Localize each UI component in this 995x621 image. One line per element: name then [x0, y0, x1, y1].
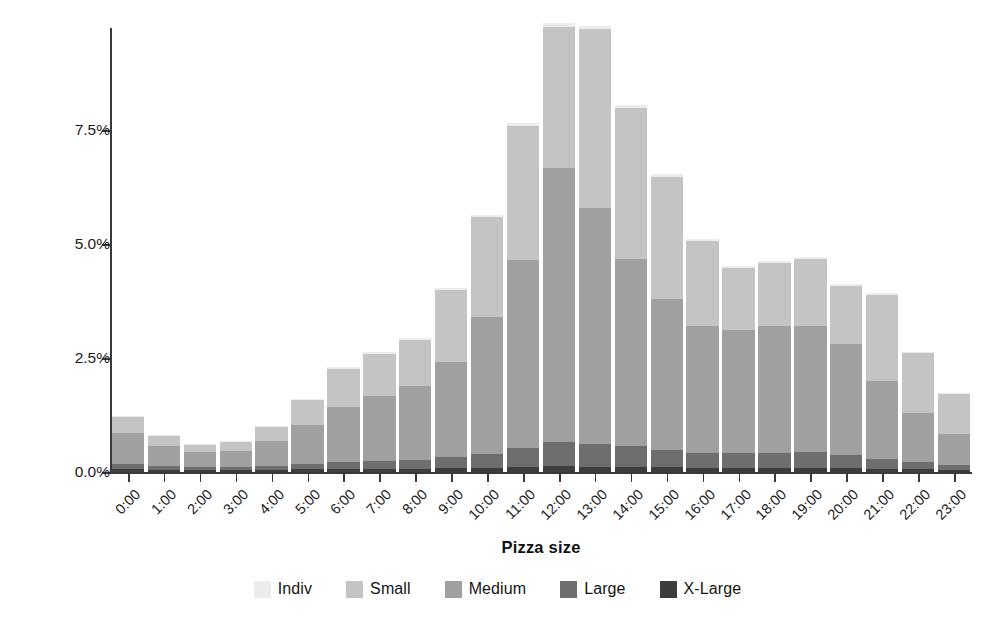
- x-tick-mark: [415, 474, 417, 482]
- legend-swatch-medium: [445, 581, 462, 598]
- bar-10-00[interactable]: [471, 215, 503, 472]
- bar-segment-small: [148, 436, 180, 446]
- x-tick-mark: [954, 474, 956, 482]
- stacked-bar-chart: Density 0.0%2.5%5.0%7.5% 0:001:002:003:0…: [0, 0, 995, 621]
- bar-segment-large: [722, 453, 754, 468]
- legend-swatch-large: [560, 581, 577, 598]
- x-tick-mark: [559, 474, 561, 482]
- bar-segment-large: [363, 461, 395, 469]
- bar-segment-small: [255, 427, 287, 441]
- bar-0-00[interactable]: [112, 416, 144, 472]
- x-tick-mark: [631, 474, 633, 482]
- bar-12-00[interactable]: [543, 23, 575, 472]
- legend-swatch-x-large: [660, 581, 677, 598]
- bar-11-00[interactable]: [507, 123, 539, 472]
- bar-segment-medium: [435, 362, 467, 457]
- bar-3-00[interactable]: [220, 441, 252, 472]
- bar-segment-medium: [758, 326, 790, 453]
- bar-segment-large: [686, 453, 718, 468]
- bar-segment-small: [327, 369, 359, 407]
- bar-segment-medium: [220, 451, 252, 467]
- bar-segment-medium: [291, 425, 323, 464]
- legend-item-medium[interactable]: Medium: [445, 580, 527, 598]
- bar-segment-medium: [507, 260, 539, 448]
- bar-20-00[interactable]: [830, 284, 862, 472]
- bar-segment-large: [615, 446, 647, 467]
- bar-segment-small: [507, 126, 539, 260]
- x-tick-mark: [810, 474, 812, 482]
- y-tick-label: 7.5%: [48, 121, 110, 139]
- plot-area: [110, 20, 972, 472]
- x-tick-mark: [882, 474, 884, 482]
- bar-6-00[interactable]: [327, 367, 359, 472]
- bar-segment-medium: [184, 452, 216, 467]
- legend-label-medium: Medium: [469, 580, 527, 598]
- x-tick-mark: [846, 474, 848, 482]
- bar-segment-large: [399, 460, 431, 469]
- bar-segment-medium: [363, 396, 395, 461]
- bar-23-00[interactable]: [938, 393, 970, 472]
- bar-21-00[interactable]: [866, 293, 898, 472]
- bar-9-00[interactable]: [435, 288, 467, 472]
- bar-segment-small: [651, 177, 683, 299]
- bar-segment-large: [758, 453, 790, 468]
- bar-segment-medium: [148, 446, 180, 466]
- bar-15-00[interactable]: [651, 174, 683, 472]
- x-tick-mark: [379, 474, 381, 482]
- x-tick-mark: [343, 474, 345, 482]
- x-tick-mark: [164, 474, 166, 482]
- bar-segment-medium: [866, 381, 898, 459]
- bar-13-00[interactable]: [579, 26, 611, 472]
- legend-item-large[interactable]: Large: [560, 580, 625, 598]
- bar-16-00[interactable]: [686, 239, 718, 472]
- bar-segment-large: [866, 459, 898, 469]
- bar-5-00[interactable]: [291, 399, 323, 472]
- bar-segment-small: [579, 29, 611, 208]
- bar-segment-medium: [327, 407, 359, 462]
- bar-segment-medium: [830, 344, 862, 455]
- bar-segment-large: [543, 442, 575, 466]
- bar-segment-small: [220, 442, 252, 451]
- y-tick-label: 2.5%: [48, 349, 110, 367]
- bar-2-00[interactable]: [184, 444, 216, 472]
- x-tick-mark: [128, 474, 130, 482]
- legend-swatch-small: [346, 581, 363, 598]
- bar-segment-large: [830, 455, 862, 468]
- legend-item-indiv[interactable]: Indiv: [254, 580, 312, 598]
- legend-swatch-indiv: [254, 581, 271, 598]
- bar-17-00[interactable]: [722, 266, 754, 472]
- bar-18-00[interactable]: [758, 261, 790, 472]
- bar-segment-small: [184, 445, 216, 453]
- bar-segment-small: [722, 268, 754, 331]
- bar-segment-small: [758, 263, 790, 326]
- bar-19-00[interactable]: [794, 257, 826, 472]
- bar-segment-medium: [579, 208, 611, 444]
- bar-segment-small: [112, 417, 144, 433]
- bar-segment-small: [471, 217, 503, 317]
- x-tick-mark: [595, 474, 597, 482]
- bar-segment-large: [507, 448, 539, 467]
- legend-label-large: Large: [584, 580, 625, 598]
- x-tick-mark: [451, 474, 453, 482]
- bar-segment-medium: [651, 299, 683, 451]
- bar-segment-medium: [938, 434, 970, 465]
- bar-8-00[interactable]: [399, 338, 431, 472]
- legend-item-x-large[interactable]: X-Large: [660, 580, 742, 598]
- bar-segment-large: [435, 457, 467, 468]
- legend-label-small: Small: [370, 580, 411, 598]
- x-tick-mark: [739, 474, 741, 482]
- bar-segment-small: [543, 27, 575, 167]
- bar-22-00[interactable]: [902, 352, 934, 472]
- legend-item-small[interactable]: Small: [346, 580, 411, 598]
- bar-4-00[interactable]: [255, 426, 287, 472]
- bar-1-00[interactable]: [148, 435, 180, 472]
- y-tick-label: 5.0%: [48, 235, 110, 253]
- bar-7-00[interactable]: [363, 352, 395, 472]
- bar-segment-medium: [794, 326, 826, 452]
- bar-segment-large: [794, 452, 826, 468]
- bar-segment-small: [686, 241, 718, 326]
- bar-segment-small: [615, 108, 647, 259]
- bar-segment-medium: [399, 386, 431, 460]
- bar-14-00[interactable]: [615, 105, 647, 472]
- x-tick-mark: [308, 474, 310, 482]
